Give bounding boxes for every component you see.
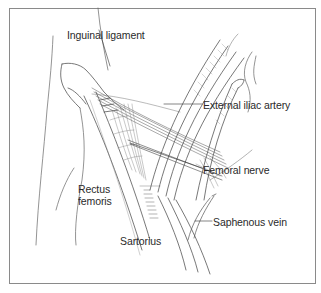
label-rectus-femoris-line1: Rectus (78, 183, 138, 195)
femoral-vessels-lower (158, 196, 210, 274)
skin-flap (61, 63, 124, 110)
label-rectus-femoris: Rectus femoris (78, 183, 138, 207)
external-iliac-artery (150, 40, 244, 200)
label-femoral-nerve: Femoral nerve (203, 164, 269, 176)
label-saphenous-vein: Saphenous vein (213, 216, 287, 228)
label-inguinal-ligament: Inguinal ligament (67, 29, 145, 41)
anatomy-illustration (0, 0, 321, 293)
sartorius-muscle (84, 92, 150, 255)
sartorius-shadow-hatching (140, 186, 160, 218)
saphenous-vein (188, 194, 216, 240)
rectus-femoris-outline (56, 108, 84, 245)
vessel-hatching (194, 44, 236, 124)
label-sartorius: Sartorius (120, 235, 161, 247)
label-rectus-femoris-line2: femoris (78, 195, 138, 207)
label-external-iliac-artery: External iliac artery (203, 99, 290, 111)
